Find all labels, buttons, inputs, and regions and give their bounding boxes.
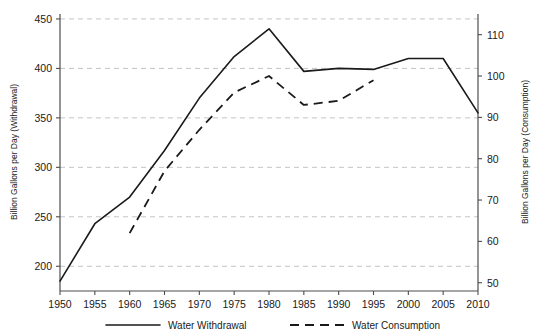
x-tick-label: 1990	[327, 298, 351, 310]
left-tick-label: 450	[34, 13, 52, 25]
series-line-water-consumption	[130, 76, 374, 233]
x-tick-label: 1965	[153, 298, 177, 310]
left-tick-label: 400	[34, 62, 52, 74]
chart-legend: Water Withdrawal Water Consumption	[106, 320, 440, 331]
plot-frame	[60, 14, 478, 291]
right-axis-ticks: 5060708090100110	[478, 29, 505, 289]
x-axis-ticks: 1950195519601965197019751980198519901995…	[48, 291, 490, 310]
right-tick-label: 50	[487, 277, 499, 289]
right-tick-label: 90	[487, 111, 499, 123]
right-tick-label: 110	[487, 29, 504, 41]
x-tick-label: 1960	[118, 298, 142, 310]
right-tick-label: 80	[487, 153, 499, 165]
series-line-water-withdrawal	[60, 29, 478, 281]
x-tick-label: 1985	[292, 298, 316, 310]
gridlines-group	[60, 19, 478, 266]
x-tick-label: 2000	[397, 298, 421, 310]
left-axis-ticks: 200250300350400450	[34, 13, 60, 272]
right-tick-label: 100	[487, 70, 505, 82]
right-tick-label: 60	[487, 235, 499, 247]
left-tick-label: 250	[34, 211, 52, 223]
legend-label-water-withdrawal: Water Withdrawal	[168, 320, 247, 331]
x-tick-label: 2010	[466, 298, 490, 310]
x-tick-label: 1970	[188, 298, 212, 310]
left-axis-title: Billion Gallons per Day (Withdrawal)	[9, 84, 19, 220]
x-tick-label: 1995	[362, 298, 386, 310]
x-tick-label: 2005	[431, 298, 455, 310]
line-chart: 200250300350400450 5060708090100110 1950…	[0, 0, 540, 334]
x-tick-label: 1955	[83, 298, 107, 310]
chart-container: 200250300350400450 5060708090100110 1950…	[0, 0, 540, 334]
left-tick-label: 350	[34, 112, 52, 124]
left-tick-label: 300	[34, 161, 52, 173]
x-tick-label: 1975	[222, 298, 246, 310]
right-tick-label: 70	[487, 194, 499, 206]
right-axis-title: Billion Gallons per Day (Consumption)	[520, 80, 530, 224]
left-tick-label: 200	[34, 260, 52, 272]
x-tick-label: 1950	[48, 298, 72, 310]
x-tick-label: 1980	[257, 298, 281, 310]
legend-label-water-consumption: Water Consumption	[352, 320, 440, 331]
